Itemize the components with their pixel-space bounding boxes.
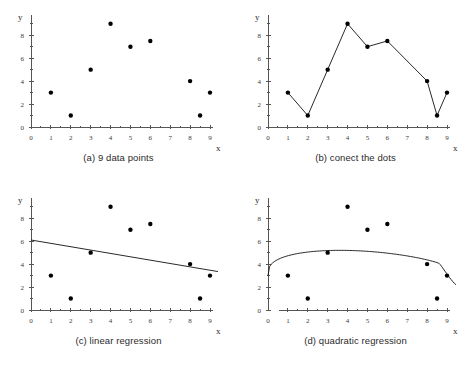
svg-text:9: 9 [208, 317, 212, 325]
svg-text:8: 8 [425, 317, 429, 325]
svg-text:0: 0 [29, 134, 33, 142]
svg-text:8: 8 [21, 32, 25, 40]
svg-text:0: 0 [266, 134, 270, 142]
panel-b-connected-dots: 012345678902468yx (b) conect the dots [237, 0, 474, 182]
svg-text:0: 0 [266, 317, 270, 325]
panel-b-caption: (b) conect the dots [237, 152, 474, 163]
svg-text:6: 6 [386, 134, 390, 142]
svg-text:8: 8 [258, 32, 262, 40]
svg-text:2: 2 [21, 101, 25, 109]
svg-text:4: 4 [258, 261, 262, 269]
svg-text:1: 1 [286, 317, 290, 325]
svg-text:7: 7 [405, 317, 409, 325]
svg-text:3: 3 [326, 134, 330, 142]
svg-text:y: y [255, 195, 260, 205]
svg-text:2: 2 [258, 284, 262, 292]
svg-text:7: 7 [168, 317, 172, 325]
svg-text:9: 9 [445, 317, 449, 325]
svg-text:7: 7 [405, 134, 409, 142]
svg-text:y: y [255, 12, 260, 22]
svg-text:6: 6 [386, 317, 390, 325]
svg-text:8: 8 [21, 215, 25, 223]
svg-text:0: 0 [29, 317, 33, 325]
svg-text:8: 8 [425, 134, 429, 142]
panel-a-caption: (a) 9 data points [0, 152, 237, 163]
svg-text:4: 4 [258, 78, 262, 86]
plot-b-svg: 012345678902468yx [237, 0, 474, 152]
svg-text:6: 6 [21, 238, 25, 246]
svg-text:x: x [216, 143, 221, 152]
svg-text:4: 4 [109, 134, 113, 142]
svg-text:7: 7 [168, 134, 172, 142]
svg-text:5: 5 [129, 317, 133, 325]
svg-text:6: 6 [21, 55, 25, 63]
plot-c-svg: 012345678902468yx [0, 183, 237, 335]
svg-text:2: 2 [69, 317, 73, 325]
svg-text:8: 8 [188, 317, 192, 325]
panel-a-scatter: 012345678902468yx (a) 9 data points [0, 0, 237, 182]
svg-text:y: y [18, 12, 23, 22]
svg-text:2: 2 [69, 134, 73, 142]
plot-d-svg: 012345678902468yx [237, 183, 474, 335]
panel-d-caption: (d) quadratic regression [237, 335, 474, 346]
panel-c-linear-regression: 012345678902468yx (c) linear regression [0, 183, 237, 365]
plot-a-svg: 012345678902468yx [0, 0, 237, 152]
svg-text:2: 2 [306, 317, 310, 325]
svg-text:y: y [18, 195, 23, 205]
svg-text:4: 4 [346, 317, 350, 325]
svg-text:0: 0 [21, 307, 25, 315]
svg-text:1: 1 [49, 317, 53, 325]
svg-text:4: 4 [21, 261, 25, 269]
svg-text:3: 3 [326, 317, 330, 325]
svg-text:4: 4 [109, 317, 113, 325]
svg-text:6: 6 [258, 238, 262, 246]
svg-text:4: 4 [21, 78, 25, 86]
panel-d-quadratic-regression: 012345678902468yx (d) quadratic regressi… [237, 183, 474, 365]
svg-text:9: 9 [445, 134, 449, 142]
svg-text:6: 6 [149, 317, 153, 325]
figure-four-panel-regression: 012345678902468yx (a) 9 data points 0123… [0, 0, 474, 365]
svg-text:0: 0 [258, 124, 262, 132]
svg-text:5: 5 [366, 317, 370, 325]
svg-text:8: 8 [258, 215, 262, 223]
svg-text:6: 6 [149, 134, 153, 142]
svg-text:8: 8 [188, 134, 192, 142]
svg-text:3: 3 [89, 317, 93, 325]
svg-text:5: 5 [366, 134, 370, 142]
svg-text:0: 0 [21, 124, 25, 132]
svg-text:6: 6 [258, 55, 262, 63]
svg-text:2: 2 [306, 134, 310, 142]
svg-text:4: 4 [346, 134, 350, 142]
svg-text:1: 1 [49, 134, 53, 142]
svg-text:5: 5 [129, 134, 133, 142]
svg-text:x: x [453, 143, 458, 152]
svg-text:x: x [453, 326, 458, 335]
svg-text:2: 2 [258, 101, 262, 109]
panel-c-caption: (c) linear regression [0, 335, 237, 346]
svg-text:9: 9 [208, 134, 212, 142]
svg-text:0: 0 [258, 307, 262, 315]
svg-text:2: 2 [21, 284, 25, 292]
svg-text:x: x [216, 326, 221, 335]
svg-text:1: 1 [286, 134, 290, 142]
svg-text:3: 3 [89, 134, 93, 142]
